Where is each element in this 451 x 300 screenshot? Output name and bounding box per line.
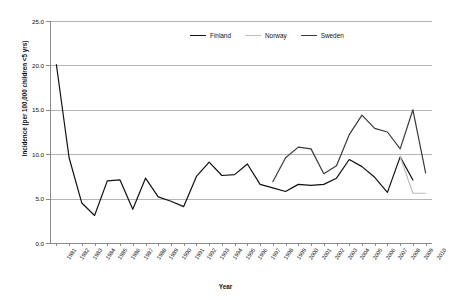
legend-label: Finland	[210, 32, 231, 39]
gridline	[50, 110, 432, 111]
x-tick-mark	[133, 243, 134, 246]
y-tick-label: 10.0	[8, 151, 44, 158]
x-tick-mark	[146, 243, 147, 246]
x-tick-mark	[375, 243, 376, 246]
gridline	[50, 154, 432, 155]
y-tick-label: 0.0	[8, 240, 44, 247]
chart-container: Incidence (per 100,000 children <5 yrs) …	[0, 0, 451, 300]
y-tick-label: 15.0	[8, 106, 44, 113]
x-tick-mark	[349, 243, 350, 246]
legend-item[interactable]: Finland	[190, 32, 231, 39]
plot-gridlines	[50, 21, 432, 243]
x-tick-mark	[311, 243, 312, 246]
legend-swatch-icon	[190, 35, 206, 36]
legend-swatch-icon	[245, 35, 261, 36]
x-tick-mark	[273, 243, 274, 246]
y-tick-label: 25.0	[8, 18, 44, 25]
legend-item[interactable]: Sweden	[301, 32, 344, 39]
x-tick-mark	[222, 243, 223, 246]
x-tick-mark	[260, 243, 261, 246]
x-tick-mark	[400, 243, 401, 246]
y-tick-label: 20.0	[8, 62, 44, 69]
x-tick-mark	[69, 243, 70, 246]
x-tick-mark	[426, 243, 427, 246]
chart-legend: FinlandNorwaySweden	[190, 32, 358, 39]
x-tick-mark	[337, 243, 338, 246]
x-tick-mark	[362, 243, 363, 246]
x-tick-mark	[196, 243, 197, 246]
gridline	[50, 199, 432, 200]
x-tick-mark	[95, 243, 96, 246]
x-tick-mark	[82, 243, 83, 246]
x-tick-mark	[235, 243, 236, 246]
legend-label: Sweden	[321, 32, 344, 39]
y-tick-label: 5.0	[8, 195, 44, 202]
x-tick-mark	[247, 243, 248, 246]
x-tick-mark	[209, 243, 210, 246]
legend-swatch-icon	[301, 35, 317, 36]
x-tick-mark	[107, 243, 108, 246]
x-tick-mark	[413, 243, 414, 246]
x-tick-mark	[171, 243, 172, 246]
x-tick-mark	[286, 243, 287, 246]
x-axis-title: Year	[0, 283, 451, 290]
legend-label: Norway	[265, 32, 287, 39]
gridline	[50, 65, 432, 66]
x-tick-mark	[324, 243, 325, 246]
x-tick-mark	[56, 243, 57, 246]
gridline	[50, 21, 432, 22]
x-tick-mark	[184, 243, 185, 246]
x-tick-mark	[158, 243, 159, 246]
y-axis-line	[50, 21, 51, 243]
x-tick-mark	[120, 243, 121, 246]
legend-item[interactable]: Norway	[245, 32, 287, 39]
x-tick-mark	[298, 243, 299, 246]
x-tick-mark	[387, 243, 388, 246]
